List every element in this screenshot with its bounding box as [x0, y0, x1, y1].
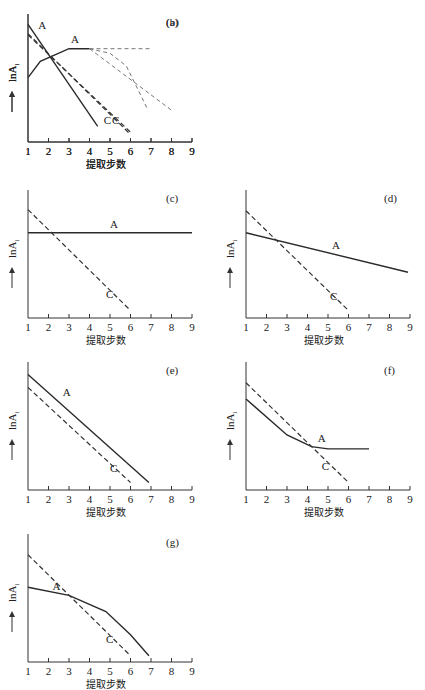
y-axis-label: lnAi — [224, 240, 239, 259]
x-tick-label: 7 — [148, 665, 154, 677]
series-label-c: C — [330, 290, 337, 302]
series-label-c: C — [106, 633, 113, 645]
axes — [28, 14, 192, 142]
y-axis-label: lnAi — [6, 240, 21, 259]
x-axis-label: 提取步数 — [86, 506, 126, 518]
panel-tag: (d) — [384, 192, 397, 205]
x-tick-label: 6 — [346, 321, 352, 333]
x-tick-label: 7 — [148, 321, 154, 333]
axes — [246, 190, 410, 318]
x-tick-label: 8 — [169, 493, 175, 505]
x-tick-label: 4 — [87, 321, 93, 333]
x-tick-label: 1 — [25, 665, 31, 677]
x-tick-label: 9 — [407, 321, 413, 333]
series-label-c: C — [106, 288, 113, 300]
x-tick-label: 2 — [46, 145, 52, 157]
x-tick-label: 6 — [128, 145, 134, 157]
x-tick-label: 4 — [87, 145, 93, 157]
x-tick-label: 8 — [169, 145, 175, 157]
x-tick-label: 3 — [66, 145, 72, 157]
x-tick-label: 7 — [148, 145, 154, 157]
x-tick-label: 8 — [387, 493, 393, 505]
chart-svg: 123456789提取步数lnAi(d)AC — [218, 176, 425, 346]
x-tick-label: 5 — [107, 665, 113, 677]
series-label-a: A — [53, 580, 61, 592]
series-a — [28, 24, 98, 126]
series-a — [28, 375, 149, 483]
x-tick-label: 4 — [305, 321, 311, 333]
x-axis-label: 提取步数 — [86, 334, 126, 346]
series-a — [246, 233, 408, 272]
chart-svg: 123456789提取步数lnAi(f)AC — [218, 348, 425, 518]
x-tick-label: 4 — [87, 665, 93, 677]
chart-panel-f: 123456789提取步数lnAi(f)AC — [218, 348, 425, 518]
svg-text:lnAi: lnAi — [6, 412, 21, 431]
y-arrow-icon — [227, 439, 233, 460]
svg-text:lnAi: lnAi — [6, 64, 21, 83]
panel-tag: (c) — [166, 192, 179, 205]
panel-tag: (g) — [166, 536, 179, 549]
y-arrow-icon — [227, 267, 233, 288]
x-tick-label: 9 — [407, 493, 413, 505]
panel-tag: (f) — [384, 364, 395, 377]
svg-text:lnAi: lnAi — [224, 412, 239, 431]
series-label-c: C — [322, 460, 329, 472]
x-tick-label: 5 — [107, 145, 113, 157]
series-c — [246, 383, 349, 483]
y-axis-label: lnAi — [6, 584, 21, 603]
x-tick-label: 8 — [169, 321, 175, 333]
y-axis-label: lnAi — [6, 64, 21, 83]
series-label-c: C — [110, 462, 117, 474]
svg-text:lnAi: lnAi — [224, 240, 239, 259]
x-tick-label: 3 — [66, 493, 72, 505]
x-axis-label: 提取步数 — [304, 334, 344, 346]
x-tick-label: 9 — [189, 665, 195, 677]
y-arrow-icon — [9, 611, 15, 632]
x-tick-label: 3 — [284, 493, 290, 505]
x-tick-label: 5 — [325, 493, 331, 505]
x-tick-label: 2 — [46, 321, 52, 333]
svg-text:lnAi: lnAi — [6, 584, 21, 603]
x-tick-label: 6 — [128, 321, 134, 333]
series-label-a: A — [38, 19, 46, 31]
x-tick-label: 2 — [264, 493, 270, 505]
series-label-c: C — [112, 114, 119, 126]
panel-tag: (b) — [166, 16, 179, 29]
x-tick-label: 6 — [346, 493, 352, 505]
x-tick-label: 3 — [66, 321, 72, 333]
x-tick-label: 9 — [189, 493, 195, 505]
series-label-a: A — [332, 239, 340, 251]
series-a — [28, 587, 149, 656]
x-tick-label: 3 — [284, 321, 290, 333]
chart-svg: 123456789提取步数lnAi(g)AC — [0, 520, 207, 690]
x-tick-label: 4 — [305, 493, 311, 505]
chart-panel-d: 123456789提取步数lnAi(d)AC — [218, 176, 425, 346]
chart-panel-b: 123456789提取步数lnAi(b)AC — [0, 0, 207, 170]
x-axis-label: 提取步数 — [304, 506, 344, 518]
series-label-a: A — [63, 386, 71, 398]
x-tick-label: 6 — [128, 665, 134, 677]
x-tick-label: 5 — [325, 321, 331, 333]
x-axis-label: 提取步数 — [86, 158, 126, 170]
x-tick-label: 9 — [189, 321, 195, 333]
x-tick-label: 2 — [46, 665, 52, 677]
x-tick-label: 7 — [148, 493, 154, 505]
x-tick-label: 4 — [87, 493, 93, 505]
chart-panel-c: 123456789提取步数lnAi(c)AC — [0, 176, 207, 346]
x-tick-label: 7 — [366, 321, 372, 333]
x-tick-label: 5 — [107, 493, 113, 505]
x-tick-label: 2 — [46, 493, 52, 505]
y-arrow-icon — [9, 91, 15, 112]
x-axis-label: 提取步数 — [86, 678, 126, 690]
series-a — [246, 399, 369, 449]
chart-panel-g: 123456789提取步数lnAi(g)AC — [0, 520, 207, 690]
x-tick-label: 8 — [387, 321, 393, 333]
x-tick-label: 1 — [25, 145, 31, 157]
series-label-a: A — [110, 218, 118, 230]
svg-text:lnAi: lnAi — [6, 240, 21, 259]
y-axis-label: lnAi — [6, 412, 21, 431]
series-c — [28, 555, 131, 656]
series-label-a: A — [318, 432, 326, 444]
panel-tag: (e) — [166, 364, 179, 377]
x-tick-label: 8 — [169, 665, 175, 677]
